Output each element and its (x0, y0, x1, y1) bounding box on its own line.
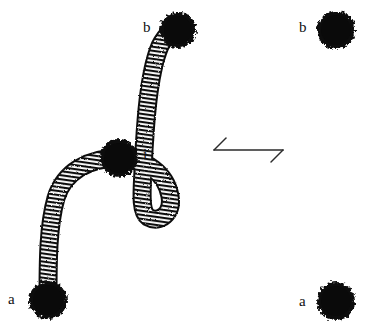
label-a-right: a (299, 294, 306, 309)
left-node-a (29, 281, 67, 319)
diagram-svg (0, 0, 371, 336)
label-b-left: b (143, 20, 151, 35)
right-node-a (317, 282, 355, 320)
left-node-b (160, 12, 196, 48)
equilibrium-arrow (214, 138, 283, 162)
label-i-kink: i (143, 147, 147, 162)
label-b-right: b (299, 20, 307, 35)
right-node-b (317, 11, 355, 49)
label-a-left: a (8, 292, 15, 307)
figure-canvas: a b i b a (0, 0, 371, 336)
left-node-i (100, 139, 138, 177)
